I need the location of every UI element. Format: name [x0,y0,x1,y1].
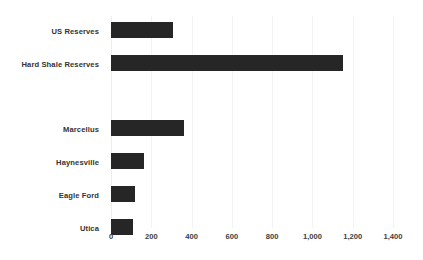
x-axis-tick-label: 1,000 [303,232,322,241]
y-axis-tick-label: Utica [0,213,105,246]
y-axis-labels: US ReservesHard Shale ReservesMarcellusH… [0,16,105,228]
x-axis-tick-label: 1,400 [383,232,402,241]
bar-row[interactable] [111,16,393,49]
bar[interactable] [111,186,135,202]
bar-chart: US ReservesHard Shale ReservesMarcellusH… [0,0,423,260]
y-axis-tick-label: Hard Shale Reserves [0,49,105,82]
y-axis-tick-label [0,82,105,115]
x-axis-tick-label: 200 [145,232,158,241]
gridline [393,16,394,228]
bar-row[interactable] [111,147,393,180]
bar-row[interactable] [111,180,393,213]
plot-area [111,16,393,228]
y-axis-tick-label: Eagle Ford [0,180,105,213]
x-axis-labels: 02004006008001,0001,2001,400 [111,232,393,252]
x-axis-tick-label: 400 [185,232,198,241]
bar-row[interactable] [111,82,393,115]
bar[interactable] [111,153,144,169]
y-axis-tick-label: US Reserves [0,16,105,49]
bar[interactable] [111,55,343,71]
x-axis-tick-label: 0 [109,232,113,241]
y-axis-tick-label: Haynesville [0,147,105,180]
x-axis-tick-label: 800 [266,232,279,241]
bar[interactable] [111,120,184,136]
bar-row[interactable] [111,114,393,147]
y-axis-tick-label: Marcellus [0,114,105,147]
x-axis-tick-label: 1,200 [343,232,362,241]
x-axis-tick-label: 600 [226,232,239,241]
bar-row[interactable] [111,49,393,82]
bar[interactable] [111,22,173,38]
